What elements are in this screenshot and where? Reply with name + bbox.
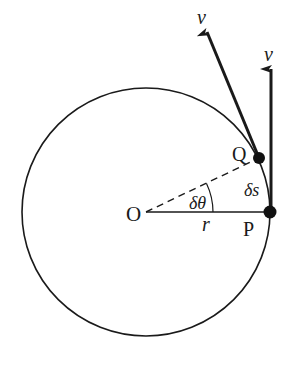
label-q: Q xyxy=(232,143,247,165)
label-velocity-q: v xyxy=(197,6,206,28)
label-velocity-p: v xyxy=(264,43,273,65)
label-radius-r: r xyxy=(202,213,210,235)
label-angle-delta-theta: δθ xyxy=(189,193,206,213)
label-p: P xyxy=(243,218,254,240)
angle-arc xyxy=(207,183,214,212)
circular-motion-diagram: O P Q r δθ δs v v xyxy=(0,0,293,365)
label-o: O xyxy=(126,202,141,226)
point-p-dot xyxy=(264,206,277,219)
label-arc-delta-s: δs xyxy=(244,180,259,200)
point-q-dot xyxy=(253,152,265,164)
velocity-vector-q xyxy=(207,32,259,158)
